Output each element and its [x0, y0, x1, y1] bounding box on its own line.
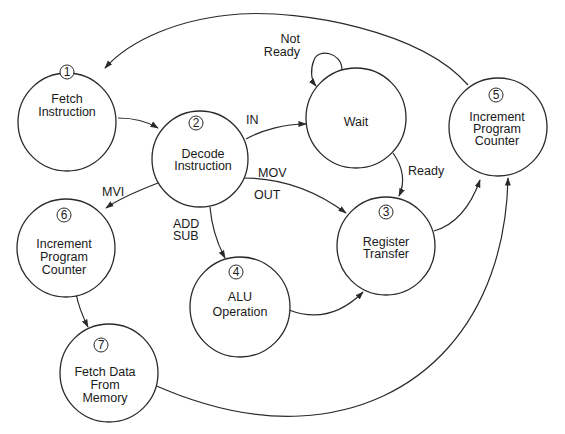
state-label-line3: Memory [82, 391, 128, 405]
state-node-6-increment-program-counter: 6 Increment Program Counter [17, 199, 115, 297]
state-number: 7 [98, 338, 105, 352]
edge-label-sub: SUB [173, 229, 199, 243]
state-label-line3: Counter [475, 134, 519, 148]
state-label-line2: Instruction [174, 159, 232, 173]
state-label-line2: From [90, 378, 119, 392]
state-number: 3 [383, 205, 390, 219]
edge-3-to-5 [434, 180, 480, 231]
state-label-line1: Fetch Data [74, 365, 135, 379]
state-number: 2 [193, 116, 200, 130]
edge-label-in: IN [246, 113, 259, 127]
state-node-3-register-transfer: 3 Register Transfer [337, 197, 435, 295]
state-label-line1: Fetch [51, 92, 82, 106]
state-label-line2: Transfer [363, 247, 409, 261]
state-node-4-alu-operation: 4 ALU Operation [190, 257, 290, 357]
state-label-line2: Program [40, 250, 88, 264]
state-label-line1: ALU [228, 290, 252, 304]
state-diagram: IN Not Ready Ready MOV OUT MVI ADD SUB 1… [0, 0, 565, 434]
state-label-line1: Wait [344, 115, 369, 129]
state-number: 5 [493, 88, 500, 102]
state-label-line1: Increment [36, 237, 92, 251]
state-number: 4 [233, 265, 240, 279]
state-node-2-decode-instruction: 2 Decode Instruction [152, 111, 248, 207]
state-node-5-increment-program-counter: 5 Increment Program Counter [449, 78, 547, 176]
state-node-1-fetch-instruction: 1 Fetch Instruction [18, 65, 116, 171]
edge-4-to-3 [289, 292, 363, 315]
edge-label-not-ready-line1: Not [281, 32, 301, 46]
edge-label-mov: MOV [258, 166, 287, 180]
edge-6-to-7 [76, 293, 88, 327]
edge-wait-to-3 [393, 153, 403, 196]
edge-2-to-4 [210, 207, 225, 258]
state-label-line2: Instruction [38, 105, 96, 119]
edge-1-to-2 [118, 118, 158, 128]
edge-label-not-ready-line2: Ready [264, 45, 301, 59]
state-number: 6 [61, 208, 68, 222]
edge-label-out: OUT [254, 188, 281, 202]
state-label-line3: Counter [42, 263, 86, 277]
state-number: 1 [64, 65, 71, 79]
edge-label-mvi: MVI [102, 185, 124, 199]
state-node-7-fetch-data-from-memory: 7 Fetch Data From Memory [60, 324, 158, 422]
edge-label-ready: Ready [408, 164, 445, 178]
state-label-line2: Operation [213, 305, 268, 319]
state-node-wait: Wait [306, 68, 406, 168]
